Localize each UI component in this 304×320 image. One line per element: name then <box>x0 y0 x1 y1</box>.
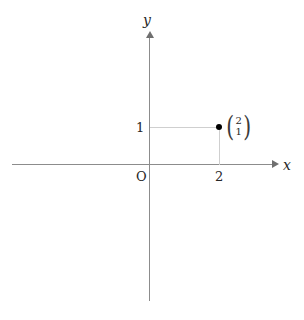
coordinate-plane-figure: y x O 2 1 ( 2 1 ) <box>0 0 304 320</box>
y-tick-label-1: 1 <box>136 121 144 134</box>
x-axis-line <box>12 164 276 165</box>
x-tick-label-2: 2 <box>215 170 223 183</box>
origin-label: O <box>136 170 147 183</box>
vertical-projection-line <box>219 127 220 165</box>
y-axis-line <box>149 37 150 301</box>
vector-open-paren: ( <box>226 113 234 140</box>
plotted-point-marker <box>216 124 222 130</box>
vector-close-paren: ) <box>243 113 251 140</box>
y-axis-arrow-icon <box>146 31 154 38</box>
y-axis-label: y <box>143 13 151 27</box>
point-vector-label: ( 2 1 ) <box>225 113 252 140</box>
vector-component-x: 2 <box>236 116 242 127</box>
horizontal-projection-line <box>150 127 219 128</box>
x-axis-label: x <box>283 158 291 172</box>
vector-component-y: 1 <box>236 127 242 138</box>
x-axis-arrow-icon <box>272 160 279 168</box>
vector-components: 2 1 <box>236 116 242 137</box>
